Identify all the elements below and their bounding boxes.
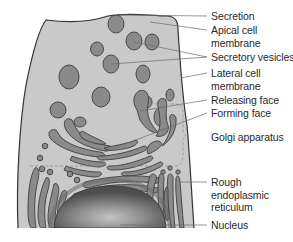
label-rough-er-line2: endoplasmic bbox=[211, 189, 269, 201]
label-forming-face: Forming face bbox=[211, 107, 271, 119]
label-apical-cell-membrane-line1: Apical cell bbox=[211, 24, 257, 36]
label-nucleus: Nucleus bbox=[211, 219, 248, 231]
label-apical-cell-membrane-line2: membrane bbox=[211, 37, 260, 49]
label-lateral-cell-membrane-line2: membrane bbox=[211, 80, 260, 92]
label-secretion: Secretion bbox=[211, 10, 254, 22]
label-golgi-apparatus: Golgi apparatus bbox=[211, 131, 284, 143]
label-rough-er-line1: Rough bbox=[211, 176, 241, 188]
label-rough-er-line3: reticulum bbox=[211, 201, 253, 213]
label-releasing-face: Releasing face bbox=[211, 94, 279, 106]
label-lateral-cell-membrane-line1: Lateral cell bbox=[211, 67, 261, 79]
label-secretory-vesicles: Secretory vesicles bbox=[211, 51, 293, 63]
